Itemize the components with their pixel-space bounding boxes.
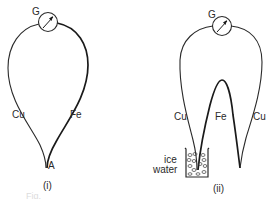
galvanometer-label-ii: G (208, 9, 216, 20)
thermocouple-figure: G Cu Fe A (i) (0, 0, 270, 199)
fe-label-i: Fe (70, 109, 82, 120)
galvanometer-i (39, 13, 58, 32)
diagram-i: G Cu Fe A (i) (8, 6, 88, 191)
fe-label-ii: Fe (215, 111, 227, 122)
figure-caption-partial: Fig. (26, 191, 41, 199)
caption-i: (i) (43, 180, 52, 191)
caption-ii: (ii) (213, 183, 224, 194)
junction-label-a: A (48, 160, 55, 171)
water-label: water (152, 164, 178, 175)
diagram-ii: Cu Fe Cu G ice water (ii) (152, 9, 266, 194)
cu-wire-i (8, 24, 46, 168)
cu-wire-right-ii (231, 26, 262, 168)
fe-wire-i (47, 23, 88, 168)
cu-label-left-ii: Cu (174, 111, 187, 122)
galvanometer-label-i: G (32, 6, 40, 17)
cu-label-right-ii: Cu (253, 111, 266, 122)
cu-label-i: Cu (12, 109, 25, 120)
